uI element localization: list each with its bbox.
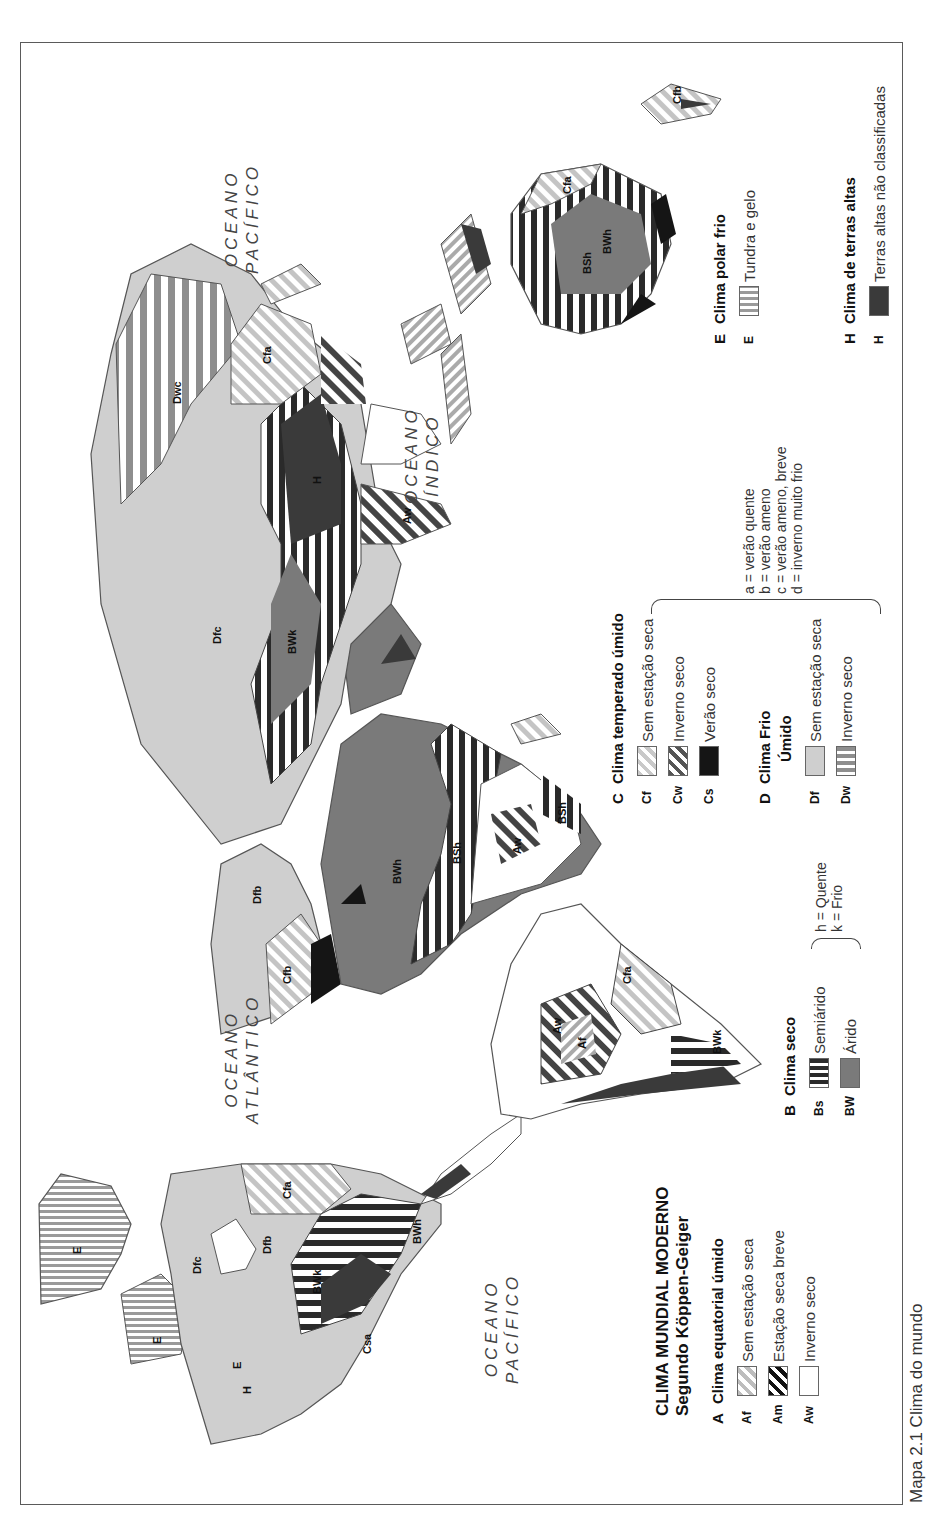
ocean-label-pacific-west: OCEANOPACÍFICO <box>481 1273 523 1384</box>
swatch-am <box>768 1366 788 1396</box>
legend-b-notes: h = Quente k = Frio <box>813 862 845 932</box>
svg-text:Aw: Aw <box>511 837 523 854</box>
swatch-cs <box>699 746 719 776</box>
svg-text:H: H <box>241 1386 253 1394</box>
swatch-dw <box>836 746 856 776</box>
legend-section-h: HClima de terras altas HTerras altas não… <box>841 86 899 344</box>
legend-item-aw: AwInverno seco <box>798 1230 820 1424</box>
swatch-e <box>739 286 759 316</box>
svg-text:BWk: BWk <box>286 629 298 654</box>
svg-text:BWk: BWk <box>711 1029 723 1054</box>
swatch-aw <box>799 1366 819 1396</box>
svg-text:Dfc: Dfc <box>211 626 223 644</box>
svg-text:Dfc: Dfc <box>191 1256 203 1274</box>
brace-cd <box>651 599 881 614</box>
svg-text:Aw: Aw <box>551 1017 563 1034</box>
swatch-bs <box>809 1058 829 1088</box>
ocean-label-indian: OCEANOÍNDICO <box>401 406 443 504</box>
svg-text:Cfa: Cfa <box>261 345 273 364</box>
swatch-cf <box>637 746 657 776</box>
legend-section-a: AClima equatorial úmido AfSem estação se… <box>709 1230 829 1424</box>
svg-text:BSh: BSh <box>556 802 568 824</box>
legend-item-h: HTerras altas não classificadas <box>868 86 890 344</box>
swatch-bw <box>840 1058 860 1088</box>
svg-text:Dfb: Dfb <box>261 1235 273 1254</box>
svg-text:BWk: BWk <box>311 1269 323 1294</box>
svg-text:BWh: BWh <box>391 859 403 884</box>
svg-text:BWh: BWh <box>411 1219 423 1244</box>
greenland <box>39 1174 131 1304</box>
legend-item-e: ETundra e gelo <box>738 190 760 344</box>
brace-b <box>811 938 861 949</box>
svg-text:E: E <box>71 1247 83 1254</box>
legend-item-cs: CsVerão seco <box>698 613 720 804</box>
svg-text:H: H <box>311 476 323 484</box>
svg-text:Cfa: Cfa <box>621 965 633 984</box>
svg-text:Cfb: Cfb <box>281 965 293 984</box>
svg-text:Dfb: Dfb <box>251 885 263 904</box>
legend-item-dw: DwInverno seco <box>835 619 857 804</box>
swatch-h <box>869 286 889 316</box>
legend-section-b: BClima seco BsSemiárido BWÁrido <box>781 986 870 1116</box>
ocean-label-atlantic: OCEANOATLÂNTICO <box>221 994 263 1124</box>
svg-text:BSh: BSh <box>451 842 463 864</box>
legend-item-df: DfSem estação seca <box>804 619 826 804</box>
map-frame: E E H E Dfc Dfb Cfa BWk BWh Csa Aw Af Cf… <box>20 42 903 1505</box>
swatch-cw <box>668 746 688 776</box>
legend-item-bs: BsSemiárido <box>808 986 830 1116</box>
svg-text:Csa: Csa <box>361 1333 373 1354</box>
caption-strip: Mapa 2.1 Clima do mundo <box>905 0 930 1533</box>
legend-item-cw: CwInverno seco <box>667 613 689 804</box>
legend-item-bw: BWÁrido <box>839 986 861 1116</box>
svg-text:Cfa: Cfa <box>281 1180 293 1199</box>
svg-text:E: E <box>231 1362 243 1369</box>
legend-section-e: EClima polar frio ETundra e gelo <box>711 190 769 344</box>
legend-section-c: CClima temperado úmido CfSem estação sec… <box>609 613 729 804</box>
map-caption: Mapa 2.1 Clima do mundo <box>907 1304 927 1503</box>
swatch-af <box>737 1366 757 1396</box>
legend-item-cf: CfSem estação seca <box>636 613 658 804</box>
ocean-label-pacific-east: OCEANOPACÍFICO <box>221 163 263 274</box>
legend-section-d: DClima Frio Úmido DfSem estação seca DwI… <box>756 619 866 804</box>
legend-item-af: AfSem estação seca <box>736 1230 758 1424</box>
map-title: CLIMA MUNDIAL MODERNO Segundo Köppen-Gei… <box>653 1187 693 1416</box>
svg-text:Af: Af <box>576 1037 588 1049</box>
svg-text:Aw: Aw <box>401 507 413 524</box>
swatch-df <box>805 746 825 776</box>
page: E E H E Dfc Dfb Cfa BWk BWh Csa Aw Af Cf… <box>0 0 930 1533</box>
legend-cd-notes: a = verão quente b = verão ameno c = ver… <box>741 447 805 594</box>
svg-text:BWh: BWh <box>601 229 613 254</box>
svg-text:Cfb: Cfb <box>671 85 683 104</box>
svg-text:E: E <box>151 1337 163 1344</box>
svg-text:Dwc: Dwc <box>171 381 183 404</box>
legend-item-am: AmEstação seca breve <box>767 1230 789 1424</box>
svg-text:Cfa: Cfa <box>561 175 573 194</box>
svg-text:BSh: BSh <box>581 252 593 274</box>
